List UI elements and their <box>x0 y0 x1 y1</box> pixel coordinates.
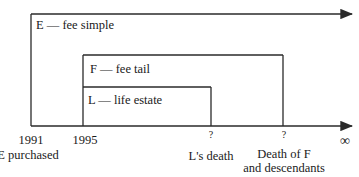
estate-label-fee-simple: E — fee simple <box>36 18 114 32</box>
tick-l-death: L's death <box>189 149 234 163</box>
tick-f-death-q: ? <box>282 128 286 142</box>
tick-1991-sub: E purchased <box>0 148 59 162</box>
infinity-label: ∞ <box>340 134 350 148</box>
tick-1995: 1995 <box>73 133 98 147</box>
tick-f-death: Death of F <box>257 147 310 161</box>
estate-label-fee-tail: F — fee tail <box>90 62 150 76</box>
estate-label-life-estate: L — life estate <box>88 93 162 107</box>
tick-l-death-q: ? <box>209 128 213 142</box>
tick-1991: 1991 <box>19 133 44 147</box>
tick-f-death-2: and descendants <box>243 161 325 175</box>
